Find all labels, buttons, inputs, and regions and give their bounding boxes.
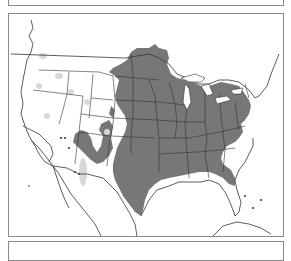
cuba-outline	[213, 222, 271, 236]
secondary-range-area	[36, 53, 110, 186]
top-panel	[8, 0, 284, 6]
map-canvas	[9, 14, 283, 236]
range-map	[8, 13, 284, 237]
bottom-panel	[8, 241, 284, 261]
primary-range-area	[73, 44, 251, 216]
